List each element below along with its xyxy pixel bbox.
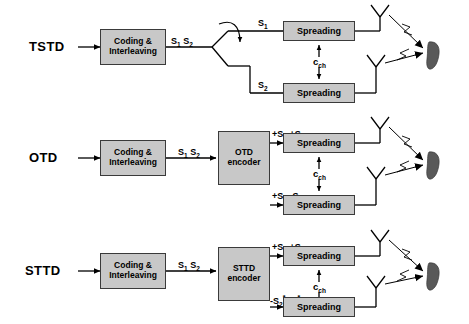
cch-subscript: ch [318, 62, 326, 69]
sig-s1-sub: 1 [177, 41, 181, 48]
row-label-sttd: STTD [25, 263, 61, 278]
otd-encoder-block[interactable]: OTD encoder [218, 131, 270, 185]
coding-block-line2: Interleaving [109, 271, 157, 281]
sig-s2-sub: 2 [196, 152, 200, 159]
coding-interleaving-block-tstd[interactable]: Coding & Interleaving [100, 29, 166, 65]
spreading-label: Spreading [297, 302, 341, 312]
spreading-block-sttd-bottom[interactable]: Spreading [283, 297, 355, 317]
cch-subscript: ch [318, 287, 326, 294]
spreading-block-tstd-bottom[interactable]: Spreading [283, 83, 355, 103]
sttd-encoder-line2: encoder [227, 274, 260, 284]
spreading-block-sttd-top[interactable]: Spreading [283, 246, 355, 266]
branch-top-sym1: +S [272, 242, 283, 252]
transmit-diversity-diagram: TSTD Coding & Interleaving S1 S2 S1 S2 S… [0, 0, 469, 324]
mobile-handset-icon [427, 42, 439, 290]
sig-s1-sub: 1 [184, 152, 188, 159]
sig-s2-sub: 2 [196, 265, 200, 272]
branch-label-tstd-bottom: S2 [258, 81, 268, 92]
row-label-otd: OTD [29, 150, 58, 165]
spreading-block-tstd-top[interactable]: Spreading [283, 21, 355, 41]
spreading-label: Spreading [297, 88, 341, 98]
branch-bottom-sym1: -S [270, 296, 279, 306]
signal-label-otd-interleaver-out: S1 S2 [178, 148, 200, 159]
spreading-block-otd-top[interactable]: Spreading [283, 133, 355, 153]
branch-top-sub: 1 [264, 23, 268, 30]
otd-encoder-line2: encoder [227, 158, 260, 168]
sig-s1-sub: 1 [184, 265, 188, 272]
signal-label-sttd-interleaver-out: S1 S2 [178, 261, 200, 272]
branch-bottom-sub: 2 [264, 85, 268, 92]
sttd-encoder-block[interactable]: STTD encoder [218, 247, 270, 301]
spreading-label: Spreading [297, 138, 341, 148]
spreading-label: Spreading [297, 200, 341, 210]
branch-bottom-sym1: +S [272, 191, 283, 201]
spreading-label: Spreading [297, 251, 341, 261]
signal-label-tstd-interleaver-out: S1 S2 [171, 37, 193, 48]
cch-label-sttd: cch [313, 281, 326, 294]
coding-interleaving-block-otd[interactable]: Coding & Interleaving [100, 140, 166, 176]
cch-label-tstd: cch [313, 56, 326, 69]
spreading-block-otd-bottom[interactable]: Spreading [283, 195, 355, 215]
coding-interleaving-block-sttd[interactable]: Coding & Interleaving [100, 253, 166, 289]
spreading-label: Spreading [297, 26, 341, 36]
coding-block-line2: Interleaving [109, 158, 157, 168]
branch-top-sym1: +S [272, 129, 283, 139]
branch-label-tstd-top: S1 [258, 19, 268, 30]
row-label-tstd: TSTD [29, 39, 65, 54]
coding-block-line2: Interleaving [109, 47, 157, 57]
sig-s2-sub: 2 [189, 41, 193, 48]
cch-label-otd: cch [313, 168, 326, 181]
cch-subscript: ch [318, 174, 326, 181]
